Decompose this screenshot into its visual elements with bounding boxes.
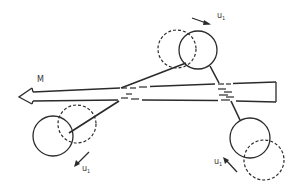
moment-arrow (19, 82, 276, 104)
moment-label: M (37, 75, 44, 84)
bottom-left-solid-circle (33, 116, 73, 156)
bottom-right-solid-circle (230, 118, 270, 158)
bottom-right-dashed-circle (244, 140, 284, 180)
bottom-left-dashed-circle (58, 105, 96, 143)
top-dashed-circle (158, 30, 196, 68)
bottom-left-rod (69, 101, 119, 133)
top-velocity-arrowhead-icon (203, 20, 211, 25)
mechanism-diagram: M u1 u1 u1 (0, 0, 296, 183)
top-rod (121, 63, 186, 88)
bottom-right-link (231, 101, 240, 120)
top-velocity-label: u1 (217, 11, 225, 21)
top-body (121, 18, 219, 88)
bottom-right-body (223, 101, 284, 180)
bottom-left-velocity-label: u1 (82, 164, 90, 174)
top-link (210, 66, 219, 83)
bottom-right-velocity-label: u1 (214, 157, 222, 167)
bottom-left-body (33, 101, 119, 167)
